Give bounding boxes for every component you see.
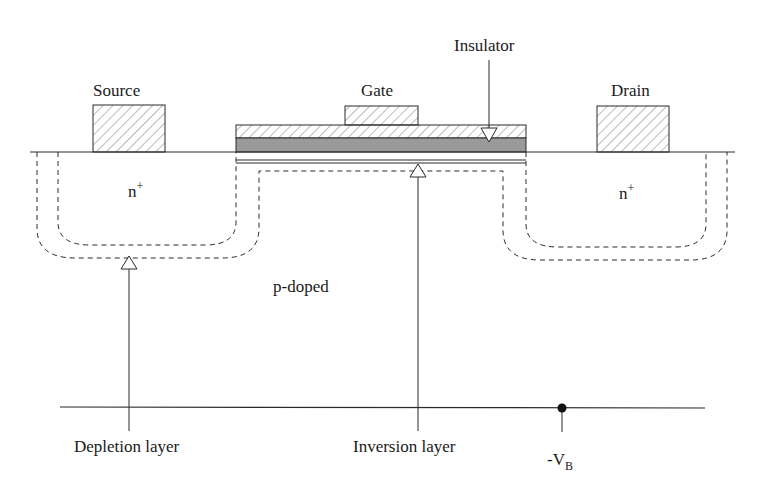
insulator-label: Insulator [454,36,515,55]
n-plus-left-label: n+ [128,179,144,201]
left-n-plus-boundary [58,152,236,245]
insulator-layer [236,138,526,152]
drain-contact [597,106,669,152]
depletion-arrow [121,256,137,431]
bulk-terminal [558,404,567,433]
gate-label: Gate [361,81,393,100]
inversion-layer [236,160,526,163]
inversion-arrow [410,164,426,431]
source-contact [93,105,165,152]
gate-contact [345,106,418,125]
right-n-plus-boundary [526,152,706,247]
bulk-voltage-label: -VB [547,450,573,473]
depletion-layer-boundary [37,152,727,260]
insulator-arrow [481,60,497,142]
n-plus-right-label: n+ [619,181,635,203]
depletion-label: Depletion layer [74,437,180,456]
source-label: Source [93,81,140,100]
inversion-label: Inversion layer [353,437,456,456]
mosfet-diagram: Source Drain Gate n+ n+ p-doped Depletio… [0,0,760,497]
drain-label: Drain [611,81,650,100]
bulk-contact-line [60,407,705,408]
substrate-label: p-doped [273,277,329,296]
